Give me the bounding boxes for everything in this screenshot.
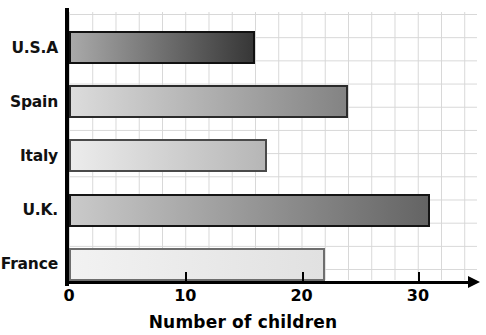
chart-title xyxy=(0,0,486,4)
y-axis-line xyxy=(65,8,69,286)
bar-uk xyxy=(69,194,430,227)
category-axis-labels: U.S.ASpainItalyU.K.France xyxy=(0,12,62,282)
x-axis-title: Number of children xyxy=(0,312,486,332)
category-label-usa: U.S.A xyxy=(0,39,58,57)
x-axis-line xyxy=(67,281,471,284)
x-tick-label-0: 0 xyxy=(63,286,74,305)
x-tick-label-30: 30 xyxy=(407,286,429,305)
category-label-uk: U.K. xyxy=(0,201,58,219)
x-tick-mark-20 xyxy=(302,272,304,283)
x-tick-label-20: 20 xyxy=(290,286,312,305)
category-label-spain: Spain xyxy=(0,93,58,111)
x-tick-mark-10 xyxy=(185,272,187,283)
bar-spain xyxy=(69,85,348,118)
bar-usa xyxy=(69,31,255,64)
x-tick-mark-30 xyxy=(418,272,420,283)
category-label-france: France xyxy=(0,255,58,273)
category-label-italy: Italy xyxy=(0,147,58,165)
bar-chart: U.S.ASpainItalyU.K.France 0102030 Number… xyxy=(0,0,486,335)
x-tick-label-10: 10 xyxy=(174,286,196,305)
x-axis-tick-labels: 0102030 xyxy=(0,286,486,312)
bar-france xyxy=(69,248,325,281)
plot-area xyxy=(69,12,479,282)
bar-italy xyxy=(69,139,267,172)
